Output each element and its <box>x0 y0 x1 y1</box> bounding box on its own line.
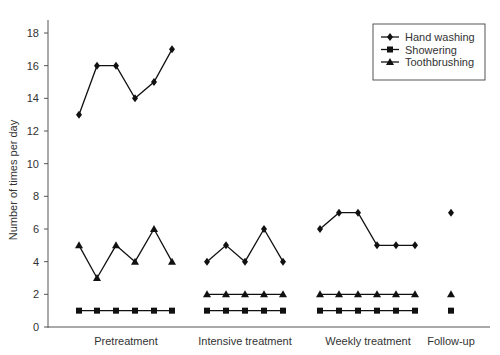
legend-label: Toothbrushing <box>405 56 474 68</box>
legend-label: Hand washing <box>405 31 475 43</box>
phase-label: Pretreatment <box>94 335 158 347</box>
phase-label: Follow-up <box>427 335 475 347</box>
y-tick-label: 16 <box>27 60 39 72</box>
y-tick-label: 10 <box>27 158 39 170</box>
y-axis: 024681012141618Number of times per day <box>7 20 48 333</box>
legend-label: Showering <box>405 44 457 56</box>
x-axis: PretreatmentIntensive treatmentWeekly tr… <box>48 327 490 347</box>
plot-area <box>75 45 455 313</box>
y-tick-label: 18 <box>27 27 39 39</box>
y-tick-label: 12 <box>27 125 39 137</box>
phase-label: Weekly treatment <box>325 335 410 347</box>
y-tick-label: 2 <box>33 288 39 300</box>
y-tick-label: 6 <box>33 223 39 235</box>
y-tick-label: 0 <box>33 321 39 333</box>
phase-label: Intensive treatment <box>198 335 292 347</box>
y-tick-label: 8 <box>33 190 39 202</box>
series-showering <box>76 308 454 314</box>
series-toothbrushing <box>75 225 455 297</box>
y-tick-label: 4 <box>33 256 39 268</box>
legend: Hand washingShoweringToothbrushing <box>373 24 485 80</box>
y-axis-label: Number of times per day <box>7 119 19 240</box>
y-tick-label: 14 <box>27 92 39 104</box>
line-chart: 024681012141618Number of times per day P… <box>0 0 500 355</box>
